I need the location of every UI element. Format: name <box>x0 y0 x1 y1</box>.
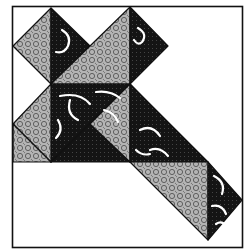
piece-bottom-light <box>130 162 208 240</box>
piece-diagonal-dark-1 <box>130 84 208 162</box>
piece-bottom-right-dark <box>208 162 242 240</box>
quilt-block <box>0 0 246 250</box>
piece-left-diamond-light <box>13 8 51 84</box>
piece-upper-right-diamond-dark <box>130 7 168 84</box>
